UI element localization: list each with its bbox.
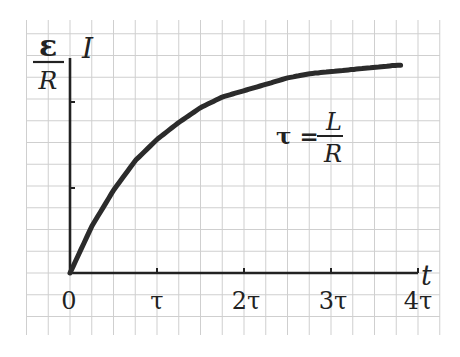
tau-equation-denominator: R	[323, 140, 342, 168]
x-tick-label-4tau: 4τ	[404, 287, 433, 315]
tau-equation-lhs: τ =	[276, 122, 319, 149]
asymptote-numerator: ε	[39, 28, 57, 63]
x-tick-label-0: 0	[61, 287, 76, 315]
x-tick-label-tau: τ	[150, 287, 163, 315]
y-axis-label: I	[81, 32, 94, 65]
tau-equation-numerator: L	[325, 108, 342, 136]
x-tick-label-2tau: 2τ	[232, 287, 261, 315]
x-tick-label-3tau: 3τ	[319, 287, 348, 315]
asymptote-denominator: R	[38, 66, 58, 95]
current-curve	[70, 65, 401, 273]
rl-current-growth-chart: I ε R t 0 τ 2τ 3τ 4τ τ = L R	[0, 0, 460, 357]
